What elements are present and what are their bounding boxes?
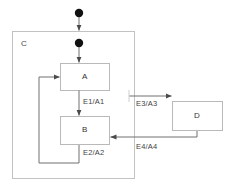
composite-state-c-box[interactable] (13, 32, 135, 179)
composite-state-c-label: C (21, 40, 27, 48)
transition-a-to-b-label: E1/A1 (83, 98, 104, 106)
state-d-label: D (194, 112, 200, 120)
transition-c-to-d-label: E3/A3 (136, 100, 157, 108)
transition-d-to-b-label: E4/A4 (136, 143, 157, 151)
state-b-label: B (82, 126, 88, 134)
transition-b-to-a-label: E2/A2 (83, 149, 104, 157)
initial-state-node-inner[interactable] (75, 39, 83, 47)
state-diagram-canvas: C A B D E1/A1 E2/A2 E3/A3 E4/A4 (0, 0, 236, 189)
initial-state-node-outer[interactable] (75, 9, 83, 17)
state-a-label: A (82, 73, 88, 81)
diagram-vector-layer (0, 0, 236, 189)
